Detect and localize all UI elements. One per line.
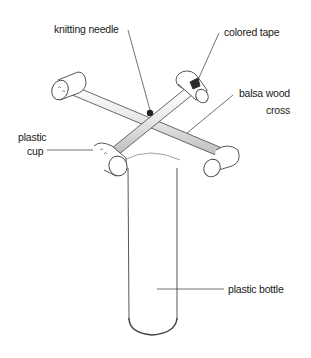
label-balsa-wood-line1: balsa wood [234,87,290,100]
label-balsa-wood-line2: cross [234,104,290,117]
anemometer-diagram: knitting needle colored tape balsa wood … [0,0,311,358]
balsa-rod-b [112,88,192,155]
plastic-bottle [124,153,180,335]
label-colored-tape: colored tape [224,26,279,39]
label-plastic-cup-line1: plastic [18,131,46,144]
diagram-drawing [0,0,311,358]
leader-lines [47,30,233,289]
leader-knitting-needle [128,30,150,110]
knitting-needle-hub [147,110,153,116]
label-knitting-needle: knitting needle [54,23,119,36]
leader-balsa-wood [187,95,233,133]
label-plastic-cup-line2: cup [27,145,43,158]
leader-colored-tape [197,33,219,82]
label-plastic-bottle: plastic bottle [228,283,284,296]
